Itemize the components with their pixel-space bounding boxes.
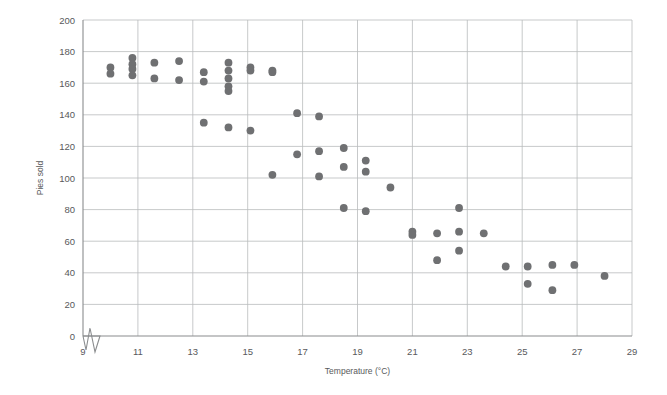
x-tick-label: 11: [133, 346, 143, 357]
data-point: [175, 76, 183, 84]
y-tick-label: 200: [59, 15, 75, 26]
data-point: [129, 71, 137, 79]
data-point: [480, 229, 488, 237]
data-point: [387, 184, 395, 192]
axis-titles: Temperature (°C)Pies sold: [35, 160, 390, 376]
data-point: [150, 75, 158, 83]
x-tick-label: 27: [572, 346, 583, 357]
y-tick-label: 120: [59, 141, 75, 152]
x-tick-label: 13: [188, 346, 199, 357]
y-tick-label: 40: [64, 267, 75, 278]
data-point: [340, 144, 348, 152]
data-point: [409, 231, 417, 239]
x-tick-label: 9: [80, 346, 85, 357]
x-tick-label: 25: [517, 346, 528, 357]
data-point: [433, 256, 441, 264]
y-tick-label: 100: [59, 173, 75, 184]
data-point: [548, 286, 556, 294]
data-point: [570, 261, 578, 269]
data-point: [315, 147, 323, 155]
data-point: [455, 247, 463, 255]
data-point: [433, 229, 441, 237]
data-point: [225, 75, 233, 83]
data-point: [107, 70, 115, 78]
x-tick-label: 29: [627, 346, 638, 357]
data-point: [269, 171, 277, 179]
data-point: [315, 112, 323, 120]
data-point: [502, 263, 510, 271]
y-tick-label: 80: [64, 204, 75, 215]
x-tick-label: 19: [352, 346, 363, 357]
data-point: [200, 78, 208, 86]
y-axis-title: Pies sold: [35, 160, 45, 195]
data-point: [340, 163, 348, 171]
data-point: [362, 157, 370, 165]
x-tick-label: 15: [242, 346, 253, 357]
x-tick-label: 17: [297, 346, 308, 357]
data-point: [269, 68, 277, 76]
y-tick-label: 180: [59, 46, 75, 57]
y-tick-label: 0: [70, 331, 75, 342]
chart-canvas: 911131517192123252729 020406080100120140…: [0, 0, 667, 395]
data-point: [247, 127, 255, 135]
data-point: [225, 59, 233, 67]
y-axis-ticks: 020406080100120140160180200: [59, 15, 75, 342]
data-point: [293, 109, 301, 117]
data-point: [225, 87, 233, 95]
data-point: [225, 67, 233, 75]
y-tick-label: 20: [64, 299, 75, 310]
y-tick-label: 60: [64, 236, 75, 247]
data-point: [455, 204, 463, 212]
data-point: [315, 173, 323, 181]
y-tick-label: 140: [59, 109, 75, 120]
data-point: [524, 263, 532, 271]
data-point: [225, 124, 233, 132]
data-point: [247, 67, 255, 75]
x-tick-label: 21: [407, 346, 418, 357]
data-point: [293, 150, 301, 158]
data-point: [548, 261, 556, 269]
data-point: [175, 57, 183, 65]
data-point: [362, 168, 370, 176]
data-point: [150, 59, 158, 67]
data-point: [362, 207, 370, 215]
y-tick-label: 160: [59, 78, 75, 89]
x-tick-label: 23: [462, 346, 473, 357]
scatter-chart: 911131517192123252729 020406080100120140…: [0, 0, 667, 395]
data-point: [455, 228, 463, 236]
data-point: [524, 280, 532, 288]
x-axis-title: Temperature (°C): [325, 366, 390, 376]
data-point: [200, 68, 208, 76]
data-point: [601, 272, 609, 280]
x-axis-ticks: 911131517192123252729: [80, 346, 637, 357]
data-point: [200, 119, 208, 127]
data-point: [340, 204, 348, 212]
